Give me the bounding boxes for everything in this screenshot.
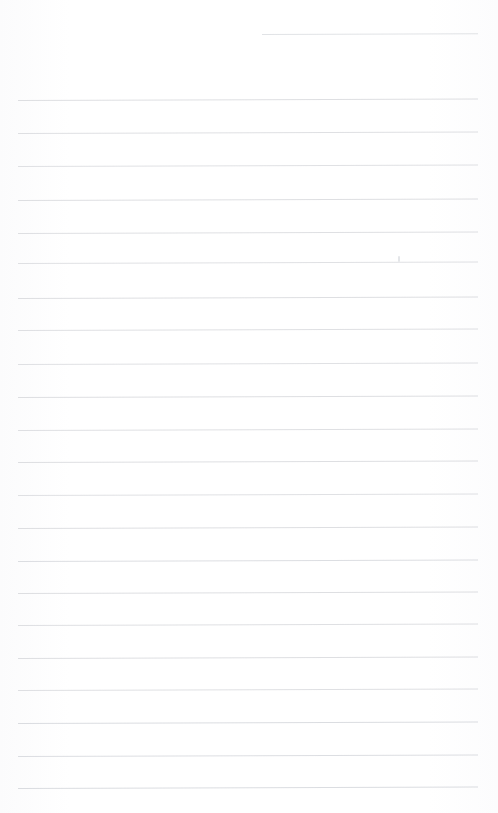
ink-speck: [398, 256, 400, 262]
ruled-line: [18, 396, 478, 398]
ruled-line: [18, 494, 478, 496]
ruled-line: [18, 131, 478, 133]
ruled-line: [18, 656, 478, 658]
paper-texture: [0, 0, 498, 813]
ruled-line-partial: [262, 33, 478, 35]
ruled-line: [18, 689, 478, 691]
ruled-line: [18, 722, 478, 724]
ruled-line: [18, 231, 478, 233]
ruled-line: [18, 624, 478, 626]
ruled-line: [18, 527, 478, 529]
ruled-line: [18, 591, 478, 593]
lined-paper-page: [0, 0, 498, 813]
ruled-line: [18, 198, 478, 200]
ruled-line: [18, 262, 478, 264]
ruled-line: [18, 754, 478, 756]
ruled-line: [18, 165, 478, 167]
ruled-line: [18, 329, 478, 331]
ruled-line: [18, 428, 478, 430]
ruled-line: [18, 296, 478, 298]
ruled-line: [18, 786, 478, 788]
ruled-line: [18, 98, 478, 100]
ruled-line: [18, 461, 478, 463]
ruled-line: [18, 559, 478, 561]
ruled-line: [18, 362, 478, 364]
